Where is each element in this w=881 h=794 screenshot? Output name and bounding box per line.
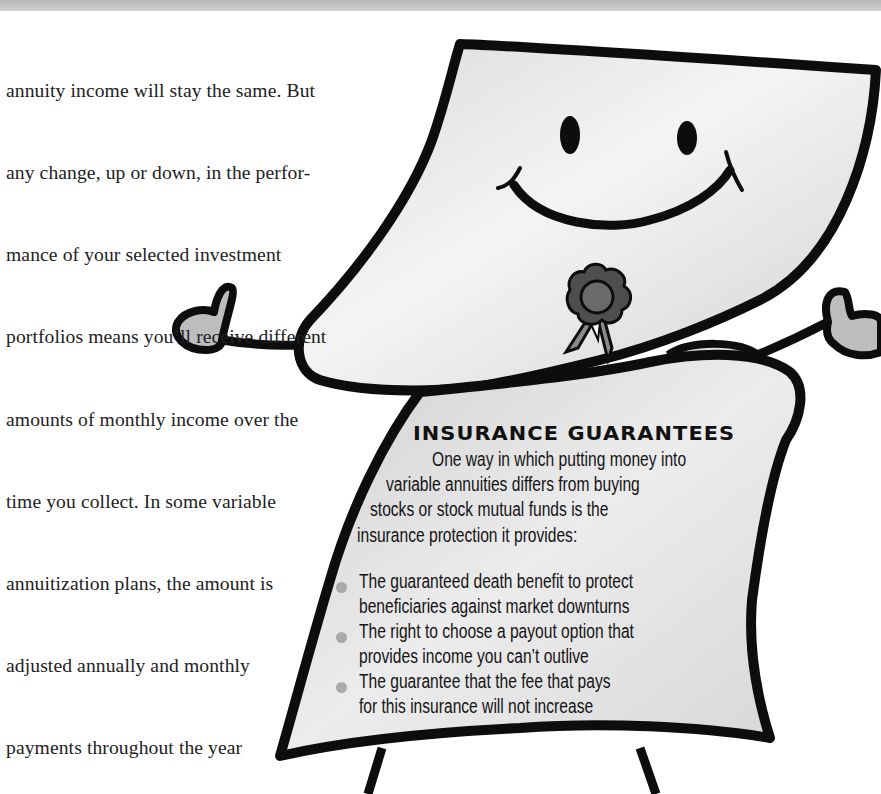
insurance-guarantees-title: INSURANCE GUARANTEES xyxy=(413,422,820,445)
text-line: annuitization plans, the amount is xyxy=(6,570,326,597)
text-line: mance of your selected investment xyxy=(6,241,326,268)
bullet-icon xyxy=(336,632,347,643)
text-line: any change, up or down, in the perfor- xyxy=(6,159,326,186)
text-line: payments throughout the year xyxy=(6,734,326,761)
bullet-icon xyxy=(336,682,347,693)
text-line: adjusted annually and monthly xyxy=(6,652,326,679)
right-eye-icon xyxy=(677,121,697,155)
text-line: amounts of monthly income over the xyxy=(6,406,326,433)
bullet-icon xyxy=(336,582,347,593)
text-line: annuity income will stay the same. But xyxy=(6,77,326,104)
article-body-text: annuity income will stay the same. But a… xyxy=(6,22,326,794)
text-line: portfolios means you’ll receive differen… xyxy=(6,323,326,350)
left-eye-icon xyxy=(560,116,580,154)
text-line: time you collect. In some variable xyxy=(6,488,326,515)
